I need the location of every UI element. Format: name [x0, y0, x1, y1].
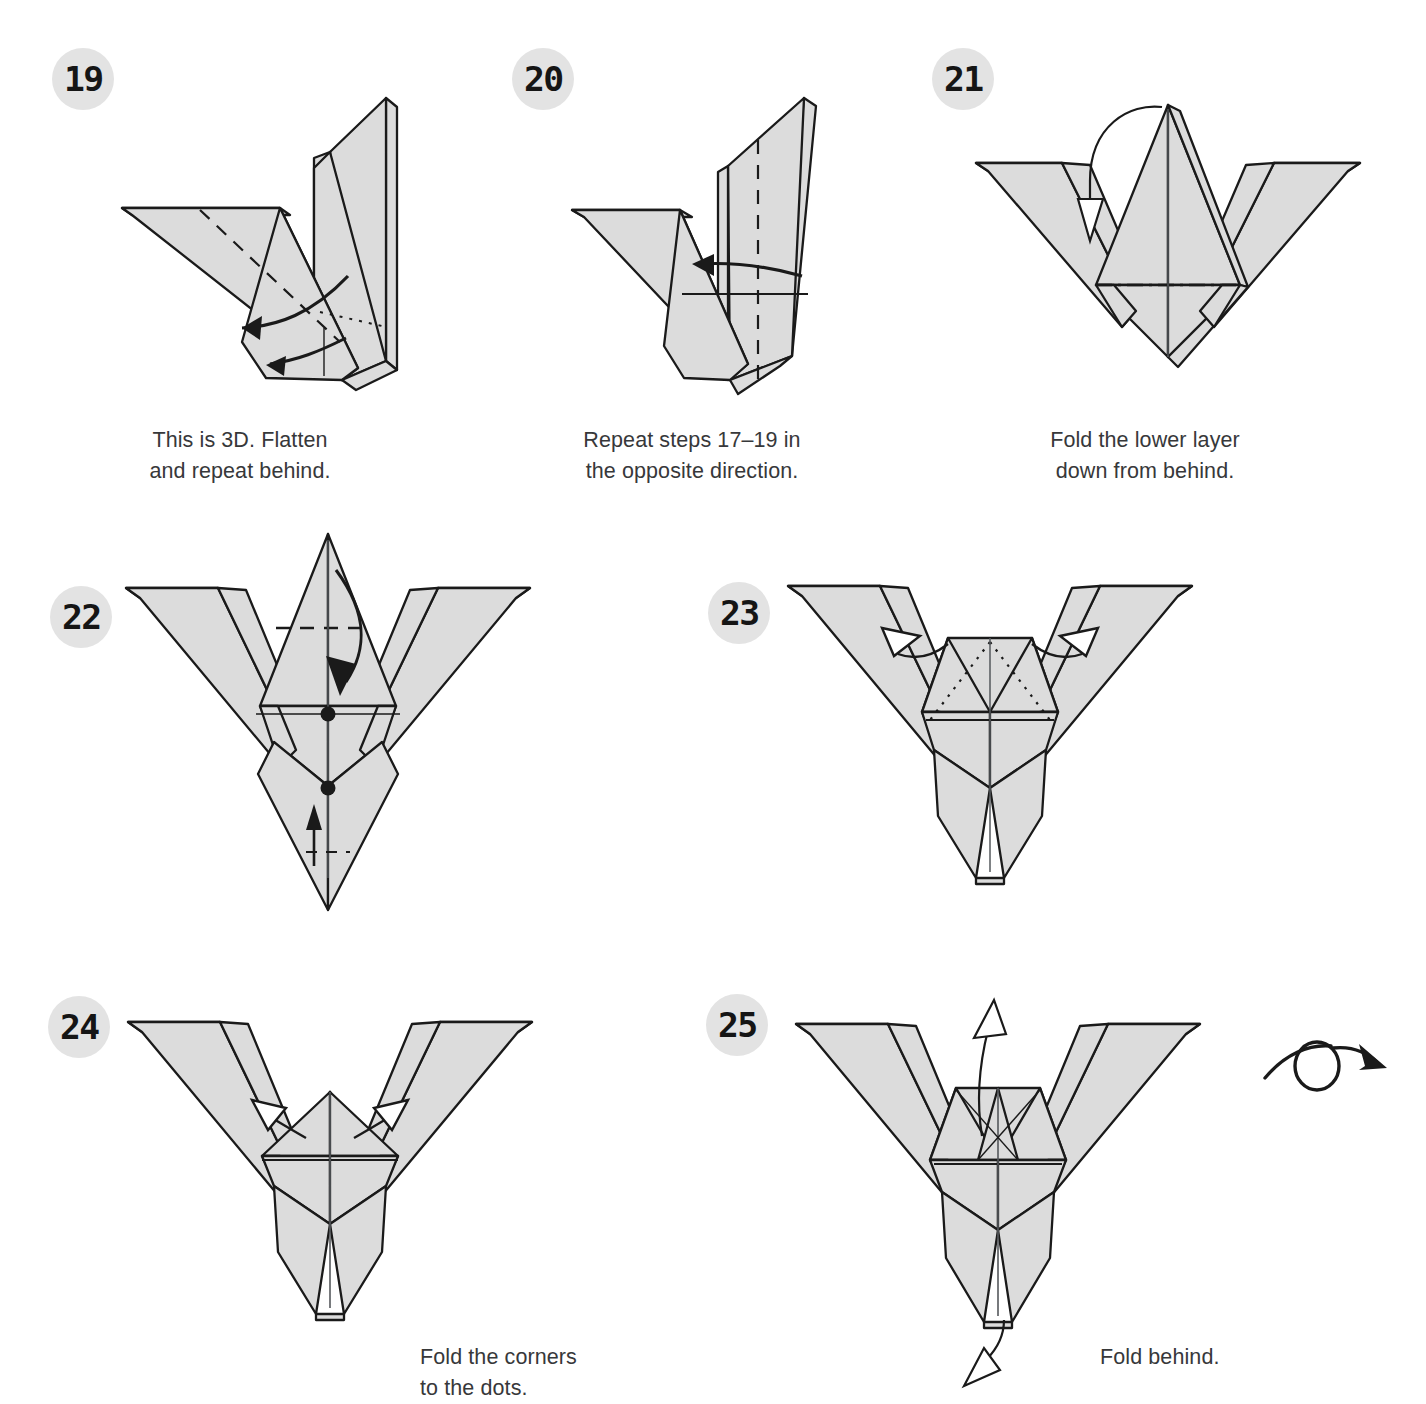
- origami-instruction-page: 19: [0, 0, 1426, 1404]
- paper-panel-tail-bottom: [976, 878, 1004, 884]
- step-number-label: 21: [944, 63, 982, 96]
- paper-panel-head-spike: [260, 534, 328, 706]
- origami-figure-23: [770, 572, 1210, 902]
- paper-panel-tail-bottom: [984, 1322, 1012, 1328]
- step-number-label: 22: [62, 601, 100, 634]
- step-23: 23: [660, 520, 1340, 940]
- hollow-unfold-arrow-down-head: [964, 1348, 1000, 1386]
- origami-figure-25: [778, 1004, 1238, 1354]
- paper-panel-back-tall: [386, 98, 397, 370]
- step-21: 21: [900, 0, 1426, 500]
- step-number-badge-24: 24: [48, 996, 110, 1058]
- turn-over-arrow-head: [1359, 1044, 1387, 1070]
- step-caption-19: This is 3D. Flatten and repeat behind.: [60, 425, 420, 486]
- step-caption-21: Fold the lower layer down from behind.: [950, 425, 1340, 486]
- step-24: 24: [0, 960, 640, 1400]
- turn-over-symbol: [1255, 1022, 1395, 1136]
- origami-figure-20: [552, 80, 882, 410]
- step-25: 25: [660, 960, 1426, 1400]
- step-22: 22: [0, 520, 640, 940]
- step-number-label: 23: [720, 597, 758, 630]
- origami-figure-21: [958, 95, 1378, 395]
- hollow-unfold-arrow-up-head: [974, 1000, 1006, 1038]
- reference-dot-lower: [321, 781, 336, 796]
- step-number-badge-23: 23: [708, 582, 770, 644]
- step-number-badge-25: 25: [706, 994, 768, 1056]
- origami-figure-19: [90, 80, 430, 410]
- step-caption-20: Repeat steps 17–19 in the opposite direc…: [507, 425, 877, 486]
- step-20: 20: [452, 0, 922, 500]
- reference-dot-upper: [321, 707, 336, 722]
- paper-panel-body-left: [1096, 105, 1168, 285]
- step-number-label: 24: [60, 1011, 98, 1044]
- paper-panel-tall-right: [728, 98, 804, 380]
- step-number-badge-22: 22: [50, 586, 112, 648]
- turn-over-loop-path: [1265, 1046, 1331, 1078]
- origami-figure-22: [108, 530, 548, 920]
- paper-panel-tail-bottom: [316, 1314, 344, 1320]
- step-number-label: 25: [718, 1009, 756, 1042]
- step-19: 19: [0, 0, 470, 500]
- origami-figure-24: [110, 1008, 550, 1338]
